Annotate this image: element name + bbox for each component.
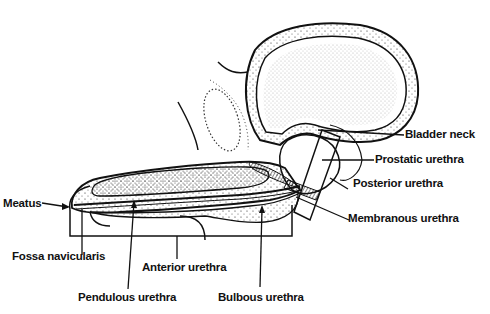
pubic-bone — [197, 85, 247, 156]
label-prostatic-urethra: Prostatic urethra — [375, 153, 464, 165]
label-posterior-urethra: Posterior urethra — [353, 177, 443, 189]
label-pendulous-urethra: Pendulous urethra — [78, 291, 176, 303]
label-bulbous-urethra: Bulbous urethra — [218, 291, 304, 303]
bladder — [246, 23, 418, 145]
label-membranous-urethra: Membranous urethra — [348, 212, 459, 224]
label-meatus: Meatus — [3, 197, 41, 209]
skin-outline — [178, 102, 198, 150]
dotted-outline — [210, 80, 248, 150]
label-bladder-neck: Bladder neck — [405, 128, 475, 140]
label-fossa-navicularis: Fossa navicularis — [12, 250, 105, 262]
label-anterior-urethra: Anterior urethra — [142, 261, 226, 273]
abdominal-outline — [218, 62, 248, 73]
